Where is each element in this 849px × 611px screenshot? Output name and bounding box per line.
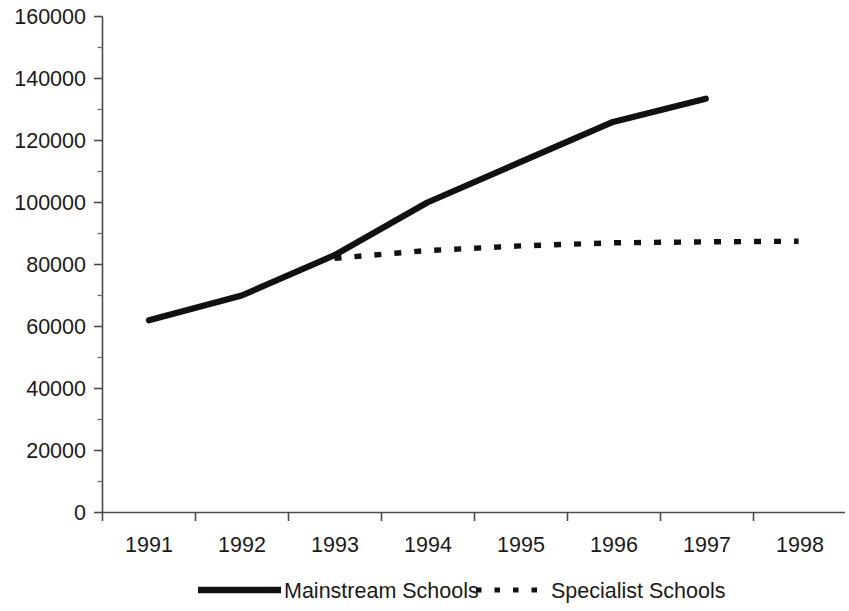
x-axis-tick-label: 1993 [311, 533, 359, 557]
x-axis-tick-label: 1992 [218, 533, 266, 557]
y-axis-tick-label: 160000 [14, 5, 86, 29]
legend-label-mainstream-schools: Mainstream Schools [284, 579, 479, 603]
line-chart: 160000 140000 120000 100000 80000 60000 … [0, 0, 849, 611]
y-axis-tick-label: 60000 [26, 315, 86, 339]
x-axis-ticks [103, 513, 754, 522]
y-axis-tick-label: 80000 [26, 253, 86, 277]
x-axis-tick-label: 1997 [683, 533, 731, 557]
y-axis-tick-label: 0 [74, 501, 86, 525]
y-axis-tick-label: 120000 [14, 129, 86, 153]
x-axis-tick-label: 1996 [590, 533, 638, 557]
x-axis-tick-label: 1991 [125, 533, 173, 557]
chart-axes [103, 17, 846, 513]
x-axis-tick-label: 1994 [404, 533, 452, 557]
x-axis-tick-label: 1995 [497, 533, 545, 557]
y-axis-major-ticks [94, 17, 103, 513]
y-axis-tick-label: 140000 [14, 67, 86, 91]
y-axis-tick-label: 20000 [26, 439, 86, 463]
legend-label-specialist-schools: Specialist Schools [551, 579, 725, 603]
series-line-mainstream-schools [149, 99, 706, 321]
chart-legend: Mainstream Schools Specialist Schools [198, 579, 725, 603]
x-axis-tick-label: 1998 [776, 533, 824, 557]
y-axis-tick-label: 40000 [26, 377, 86, 401]
y-axis-tick-label: 100000 [14, 191, 86, 215]
chart-canvas: 160000 140000 120000 100000 80000 60000 … [0, 0, 849, 611]
series-line-specialist-schools [335, 241, 799, 258]
